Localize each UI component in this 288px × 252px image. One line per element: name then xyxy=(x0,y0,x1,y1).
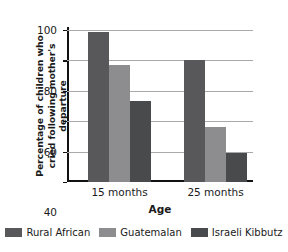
legend-label-israeli-kibbutz: Israeli Kibbutz xyxy=(212,227,283,238)
y-axis-title-text: Percentage of children who cried followi… xyxy=(34,26,69,186)
bar-group-0 xyxy=(88,30,151,182)
plot-area: 020406080100 xyxy=(67,30,253,182)
bar-15-months-rural-african xyxy=(88,32,109,182)
y-axis-title: Percentage of children who cried followi… xyxy=(0,26,34,186)
legend-item-guatemalan: Guatemalan xyxy=(99,227,181,238)
x-tick-label-15-months: 15 months xyxy=(88,186,151,198)
y-tick-label-80: 80 xyxy=(44,85,57,97)
legend-item-israeli-kibbutz: Israeli Kibbutz xyxy=(191,227,283,238)
x-tick-label-25-months: 25 months xyxy=(184,186,247,198)
y-tick-label-100: 100 xyxy=(37,24,57,36)
legend-swatch-icon-rural-african xyxy=(5,228,22,237)
legend-label-rural-african: Rural African xyxy=(26,227,90,238)
legend-item-rural-african: Rural African xyxy=(5,227,90,238)
chart-legend: Rural African Guatemalan Israeli Kibbutz xyxy=(0,227,288,238)
bar-15-months-guatemalan xyxy=(109,65,130,182)
y-tick-0: 0 xyxy=(63,182,67,183)
x-axis-title: Age xyxy=(67,203,253,215)
bar-chart-figure: Percentage of children who cried followi… xyxy=(0,0,288,252)
legend-label-guatemalan: Guatemalan xyxy=(120,227,181,238)
bar-25-months-israeli-kibbutz xyxy=(226,153,247,182)
bar-group-1 xyxy=(184,30,247,182)
bars-layer xyxy=(67,30,253,182)
bar-15-months-israeli-kibbutz xyxy=(130,101,151,182)
legend-swatch-icon-guatemalan xyxy=(99,228,116,237)
bar-25-months-guatemalan xyxy=(205,127,226,182)
y-tick-label-60: 60 xyxy=(44,146,57,158)
bar-25-months-rural-african xyxy=(184,60,205,182)
y-tick-label-40: 40 xyxy=(44,206,57,218)
legend-swatch-icon-israeli-kibbutz xyxy=(191,228,208,237)
